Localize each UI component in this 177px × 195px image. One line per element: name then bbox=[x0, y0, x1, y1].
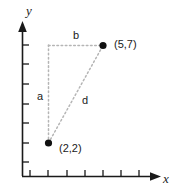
data-point-2-2 bbox=[45, 139, 52, 146]
data-point-5-7 bbox=[99, 42, 106, 49]
segment-label-d: d bbox=[82, 95, 88, 106]
x-axis-label: x bbox=[163, 172, 169, 185]
segment-d-hypotenuse bbox=[49, 46, 104, 144]
distance-formula-diagram: y x a b d (2,2) (5,7) bbox=[0, 0, 177, 195]
y-axis-arrowhead bbox=[18, 21, 27, 32]
segment-label-a: a bbox=[37, 91, 43, 102]
segment-label-b: b bbox=[73, 30, 79, 41]
y-axis-label: y bbox=[26, 4, 32, 17]
coordinate-plane-graphic bbox=[0, 0, 177, 195]
y-axis-ticks bbox=[23, 45, 30, 162]
x-axis-arrowhead bbox=[150, 172, 161, 180]
point-label-5-7: (5,7) bbox=[114, 39, 137, 50]
point-label-2-2: (2,2) bbox=[59, 143, 82, 154]
x-axis-ticks bbox=[30, 170, 139, 177]
